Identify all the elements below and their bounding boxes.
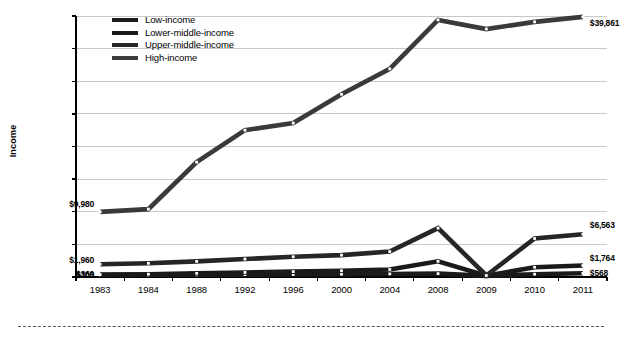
- legend-swatch-icon: [112, 43, 138, 47]
- data-point-marker: [581, 264, 584, 267]
- data-point-marker: [292, 255, 295, 258]
- x-axis-tick-label: 1983: [90, 284, 111, 295]
- data-point-marker: [581, 272, 584, 275]
- x-axis-tick-label: 2000: [331, 284, 352, 295]
- series-start-label: $369: [76, 269, 94, 279]
- legend-swatch-icon: [112, 56, 138, 60]
- series-start-label: $1,960: [69, 255, 94, 265]
- data-point-marker: [99, 273, 102, 276]
- series-end-label: $6,563: [590, 220, 615, 230]
- series-end-label: $39,861: [590, 18, 619, 28]
- x-axis-tick-label: 2010: [524, 284, 545, 295]
- x-axis-tick-label: 2008: [428, 284, 449, 295]
- data-point-marker: [388, 268, 391, 271]
- data-point-marker: [244, 258, 247, 261]
- data-point-marker: [244, 129, 247, 132]
- data-point-marker: [437, 272, 440, 275]
- series-start-label: $9,980: [69, 199, 94, 209]
- legend-swatch-icon: [112, 31, 138, 35]
- y-axis-tick-group: $0$5,000$10,000$15,000$20,000$25,000$30,…: [0, 0, 75, 344]
- data-point-marker: [388, 273, 391, 276]
- data-point-marker: [292, 270, 295, 273]
- series-end-label: $568: [590, 268, 608, 278]
- income-line-chart: Income $0$5,000$10,000$15,000$20,000$25,…: [0, 0, 621, 344]
- data-point-marker: [581, 233, 584, 236]
- data-point-marker: [437, 19, 440, 22]
- data-point-marker: [533, 273, 536, 276]
- x-axis-tick-label: 1988: [186, 284, 207, 295]
- data-point-marker: [99, 263, 102, 266]
- legend-item[interactable]: Low-income: [112, 14, 234, 27]
- legend-item[interactable]: High-income: [112, 52, 234, 65]
- data-point-marker: [340, 273, 343, 276]
- x-axis-tick-label: 1996: [283, 284, 304, 295]
- data-point-marker: [485, 28, 488, 31]
- data-point-marker: [388, 67, 391, 70]
- data-point-marker: [533, 20, 536, 23]
- data-point-marker: [388, 250, 391, 253]
- legend-label: High-income: [145, 52, 197, 65]
- legend-label: Upper-middle-income: [145, 39, 234, 52]
- legend-swatch-icon: [112, 18, 138, 22]
- data-point-marker: [147, 262, 150, 265]
- data-point-marker: [340, 93, 343, 96]
- data-point-marker: [485, 274, 488, 277]
- x-axis-tick-label: 2004: [379, 284, 400, 295]
- data-point-marker: [340, 254, 343, 257]
- legend-item[interactable]: Upper-middle-income: [112, 39, 234, 52]
- legend-label: Lower-middle-income: [145, 27, 234, 40]
- data-point-marker: [437, 260, 440, 263]
- data-point-marker: [437, 227, 440, 230]
- series-line-upper-middle-income: [100, 228, 583, 275]
- data-point-marker: [195, 161, 198, 164]
- data-point-marker: [195, 260, 198, 263]
- data-point-marker: [340, 269, 343, 272]
- data-point-marker: [147, 273, 150, 276]
- footer-divider: [18, 326, 604, 327]
- data-point-marker: [99, 210, 102, 213]
- data-point-marker: [244, 271, 247, 274]
- data-point-marker: [533, 266, 536, 269]
- x-axis-tick-label: 1984: [138, 284, 159, 295]
- x-axis-tick-label: 1992: [235, 284, 256, 295]
- data-point-marker: [195, 272, 198, 275]
- data-point-marker: [147, 208, 150, 211]
- data-point-marker: [292, 122, 295, 125]
- legend-item[interactable]: Lower-middle-income: [112, 27, 234, 40]
- series-end-label: $1,764: [590, 253, 615, 263]
- data-point-marker: [581, 16, 584, 19]
- chart-legend: Low-incomeLower-middle-incomeUpper-middl…: [112, 14, 234, 64]
- data-point-marker: [533, 237, 536, 240]
- x-axis-tick-label: 2011: [573, 284, 593, 295]
- legend-label: Low-income: [145, 14, 195, 27]
- x-axis-tick-label: 2009: [476, 284, 497, 295]
